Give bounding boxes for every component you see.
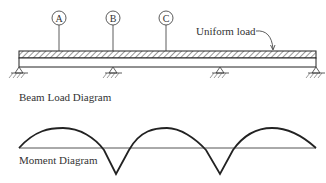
beam [19,51,316,67]
marker-b: B [106,11,120,51]
marker-a-label: A [55,13,63,24]
moment-curve [19,128,316,174]
beam-body [19,58,316,67]
support-1 [9,67,28,78]
marker-a: A [52,11,66,51]
support-4 [306,67,325,78]
diagram-canvas: A B C Uniform load Beam Load Diagram Mom… [0,0,326,183]
uniform-load-band [19,51,316,58]
moment-diagram-title: Moment Diagram [19,154,98,166]
support-3 [210,67,229,78]
support-2 [103,67,122,78]
marker-c: C [159,11,173,51]
uniform-load-label: Uniform load [196,25,256,37]
beam-load-diagram-title: Beam Load Diagram [19,91,112,103]
load-arrow [256,31,273,49]
marker-c-label: C [163,13,170,24]
marker-b-label: B [110,13,117,24]
